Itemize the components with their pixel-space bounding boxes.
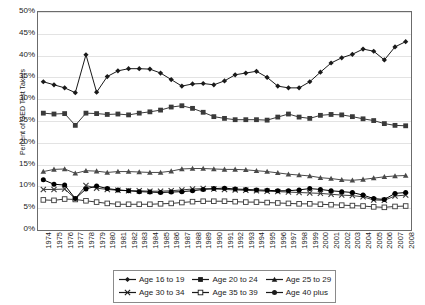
data-point-diamond <box>169 77 174 82</box>
chart-legend: Age 16 to 19Age 20 to 24Age 25 to 29Age … <box>113 270 336 303</box>
series-age-35-to-39 <box>41 197 408 210</box>
plot-area <box>37 11 412 231</box>
x-axis-tick: 1979 <box>99 232 107 249</box>
data-point-circle <box>158 190 163 195</box>
data-point-square-filled <box>275 115 280 120</box>
series-age-16-to-19 <box>41 39 409 95</box>
x-axis-tick: 1993 <box>248 232 256 249</box>
data-point-circle <box>393 191 398 196</box>
data-point-square-open <box>158 202 163 207</box>
data-point-circle <box>254 187 259 192</box>
data-point-diamond <box>179 84 184 89</box>
y-axis-tick-labels: 50%45%40%35%30%25%20%15%10%5%0% <box>0 0 35 245</box>
data-point-square-open <box>254 200 259 205</box>
data-point-square-filled <box>382 121 387 126</box>
data-point-square-open <box>286 201 291 206</box>
x-axis-tick: 2001 <box>333 232 341 249</box>
y-axis-tick: 25% <box>3 116 35 124</box>
x-axis-tick: 1987 <box>184 232 192 249</box>
data-point-square-open <box>233 199 238 204</box>
data-point-square-open <box>297 202 302 207</box>
data-point-diamond <box>62 85 67 90</box>
data-point-square-open <box>148 202 153 207</box>
legend-item-age-20-to-24[interactable]: Age 20 to 24 <box>191 274 257 285</box>
x-axis-tick: 2000 <box>322 232 330 249</box>
data-point-circle <box>169 190 174 195</box>
data-point-square-open <box>361 204 366 209</box>
x-axis-tick: 2005 <box>376 232 384 249</box>
data-point-square-filled <box>254 117 259 122</box>
data-point-square-open <box>371 205 376 210</box>
y-axis-tick: 0% <box>3 225 35 233</box>
x-axis-tick: 1996 <box>280 232 288 249</box>
data-point-square-filled <box>201 110 206 115</box>
data-point-square-open <box>169 201 174 206</box>
data-point-circle <box>147 190 152 195</box>
data-point-square-filled <box>243 117 248 122</box>
y-axis-tick: 50% <box>3 7 35 15</box>
legend-label: Age 25 to 29 <box>286 275 331 284</box>
data-point-diamond <box>83 52 88 57</box>
data-point-diamond <box>339 55 344 60</box>
data-point-square-filled <box>297 115 302 120</box>
x-axis-tick: 1997 <box>290 232 298 249</box>
series-age-25-to-29 <box>41 166 409 183</box>
data-point-diamond <box>286 85 291 90</box>
data-point-circle <box>318 187 323 192</box>
data-point-circle <box>190 188 195 193</box>
data-point-square-open <box>339 203 344 208</box>
legend-item-age-30-to-34[interactable]: Age 30 to 34 <box>118 287 184 298</box>
data-point-square-filled <box>361 116 366 121</box>
data-point-diamond <box>125 277 130 282</box>
data-point-diamond <box>211 82 216 87</box>
legend-marker-square-open-icon <box>191 287 210 298</box>
legend-item-age-25-to-29[interactable]: Age 25 to 29 <box>265 274 331 285</box>
data-point-circle <box>222 186 227 191</box>
data-point-square-open <box>382 205 387 210</box>
x-axis-tick: 1983 <box>141 232 149 249</box>
data-point-circle <box>126 188 131 193</box>
data-point-circle <box>94 183 99 188</box>
data-point-square-filled <box>148 109 153 114</box>
x-axis-tick: 1976 <box>67 232 75 249</box>
data-point-diamond <box>115 68 120 73</box>
data-point-square-open <box>137 202 142 207</box>
data-point-square-open <box>212 199 217 204</box>
data-point-square-open <box>94 200 99 205</box>
x-axis-tick: 1974 <box>45 232 53 249</box>
ged-age-distribution-chart: Percent of GED Test Takers 50%45%40%35%3… <box>0 0 425 305</box>
y-axis-tick: 35% <box>3 72 35 80</box>
legend-item-age-40-plus[interactable]: Age 40 plus <box>265 287 328 298</box>
data-point-square-filled <box>233 117 238 122</box>
legend-item-age-35-to-39[interactable]: Age 35 to 39 <box>191 287 257 298</box>
x-axis-tick: 1989 <box>205 232 213 249</box>
data-point-circle <box>361 193 366 198</box>
data-point-square-open <box>275 201 280 206</box>
data-point-square-filled <box>169 105 174 110</box>
data-point-diamond <box>403 39 408 44</box>
data-point-diamond <box>350 52 355 57</box>
x-axis-tick: 2008 <box>408 232 416 249</box>
legend-marker-triangle-icon <box>265 274 284 285</box>
data-point-diamond <box>243 70 248 75</box>
y-axis-tick: 5% <box>3 203 35 211</box>
x-axis-tick: 2006 <box>386 232 394 249</box>
data-point-square-filled <box>137 111 142 116</box>
x-axis-tick: 1988 <box>195 232 203 249</box>
data-point-square-open <box>201 199 206 204</box>
data-point-square-filled <box>371 118 376 123</box>
data-point-circle <box>307 186 312 191</box>
data-point-square-filled <box>286 112 291 117</box>
data-point-square-filled <box>350 114 355 119</box>
data-point-square-filled <box>265 118 270 123</box>
data-point-square-open <box>222 199 227 204</box>
data-point-circle <box>286 188 291 193</box>
data-point-square-open <box>105 201 110 206</box>
legend-item-age-16-to-19[interactable]: Age 16 to 19 <box>118 274 184 285</box>
x-axis-tick: 2007 <box>397 232 405 249</box>
data-point-circle <box>201 187 206 192</box>
data-point-circle <box>329 188 334 193</box>
data-point-diamond <box>222 78 227 83</box>
data-point-square-filled <box>84 111 89 116</box>
data-point-square-filled <box>403 123 408 128</box>
